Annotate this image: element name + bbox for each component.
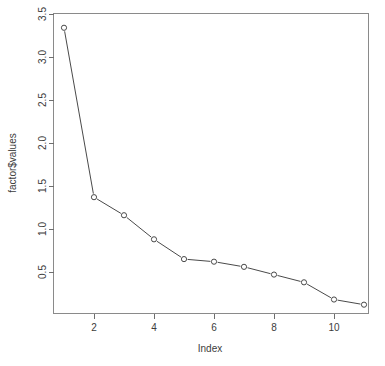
y-tick-label: 2.5: [37, 93, 48, 107]
y-tick-label: 2.0: [37, 136, 48, 150]
y-tick-label: 1.0: [37, 222, 48, 236]
scree-plot-figure: 0.51.01.52.02.53.03.5 246810 factor$valu…: [0, 0, 385, 366]
x-tick-label: 4: [151, 322, 157, 333]
y-tick-label: 0.5: [37, 265, 48, 279]
x-axis-title: Index: [198, 343, 222, 354]
x-tick-label: 6: [211, 322, 217, 333]
chart-canvas: 0.51.01.52.02.53.03.5 246810 factor$valu…: [0, 0, 385, 366]
y-tick-label: 3.0: [37, 50, 48, 64]
y-tick-label: 3.5: [37, 7, 48, 21]
x-tick-label: 2: [91, 322, 97, 333]
x-tick-label: 8: [271, 322, 277, 333]
x-tick-label: 10: [328, 322, 340, 333]
y-axis-title: factor$values: [7, 133, 18, 192]
y-tick-label: 1.5: [37, 179, 48, 193]
chart-background: [0, 0, 385, 366]
